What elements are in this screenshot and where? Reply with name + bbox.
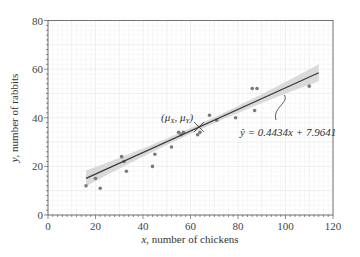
y-tick-label: 0 xyxy=(38,209,44,221)
data-point xyxy=(151,165,155,169)
data-point xyxy=(94,177,98,181)
data-point xyxy=(153,152,157,156)
x-tick-label: 80 xyxy=(233,220,245,232)
regression-equation: ŷ = 0.4434x + 7.9641 xyxy=(239,126,336,138)
data-point xyxy=(208,114,212,118)
data-point xyxy=(250,87,254,91)
x-tick-label: 120 xyxy=(325,220,342,232)
data-point xyxy=(170,145,174,149)
x-tick-label: 20 xyxy=(90,220,102,232)
data-point xyxy=(255,87,259,91)
y-tick-label: 80 xyxy=(32,15,44,27)
y-tick-label: 40 xyxy=(32,112,44,124)
data-point xyxy=(120,155,124,159)
data-point xyxy=(198,131,202,135)
y-axis-label: y, number of rabbits xyxy=(8,74,20,164)
scatter-chart: 020406080100120020406080 (μX, μY)ŷ = 0.4… xyxy=(0,0,360,257)
x-tick-label: 0 xyxy=(45,220,51,232)
y-tick-label: 60 xyxy=(32,63,44,75)
mean-label: (μX, μY) xyxy=(161,111,193,125)
data-point xyxy=(125,169,129,173)
data-point xyxy=(307,84,311,88)
y-tick-label: 20 xyxy=(32,160,44,172)
x-axis-label: x, number of chickens xyxy=(140,233,238,245)
data-point xyxy=(84,184,88,188)
data-point xyxy=(234,116,238,120)
data-point xyxy=(253,109,257,113)
x-tick-label: 40 xyxy=(138,220,150,232)
x-tick-label: 60 xyxy=(185,220,197,232)
x-tick-label: 100 xyxy=(277,220,294,232)
data-point xyxy=(98,186,102,190)
